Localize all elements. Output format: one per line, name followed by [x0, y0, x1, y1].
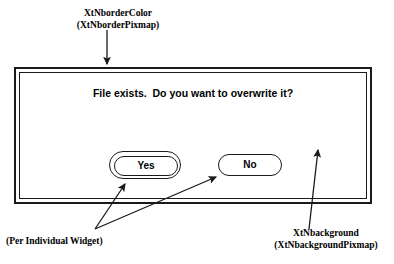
figure-canvas: XtNborderColor (XtNborderPixmap) XtNback… — [0, 0, 394, 264]
annotation-border-color-line2: (XtNborderPixmap) — [48, 20, 188, 32]
no-button[interactable]: No — [218, 154, 282, 176]
dialog-window: File exists. Do you want to overwrite it… — [14, 67, 372, 204]
annotation-background-line1: XtNbackground — [293, 228, 359, 238]
annotation-border-color: XtNborderColor (XtNborderPixmap) — [48, 8, 188, 31]
yes-button[interactable]: Yes — [114, 156, 178, 176]
dialog-client-area: File exists. Do you want to overwrite it… — [16, 69, 370, 202]
yes-button-label: Yes — [137, 161, 154, 171]
no-button-label: No — [243, 160, 256, 170]
annotation-background-line2: (XtNbackgroundPixmap) — [258, 240, 394, 252]
annotation-border-color-line1: XtNborderColor — [84, 8, 152, 18]
annotation-per-individual-widget-line1: (Per Individual Widget) — [6, 236, 103, 246]
annotation-background: XtNbackground (XtNbackgroundPixmap) — [258, 228, 394, 251]
dialog-message: File exists. Do you want to overwrite it… — [16, 87, 370, 99]
button-yes-default-ring: Yes — [109, 151, 181, 179]
annotation-per-individual-widget: (Per Individual Widget) — [6, 236, 166, 248]
